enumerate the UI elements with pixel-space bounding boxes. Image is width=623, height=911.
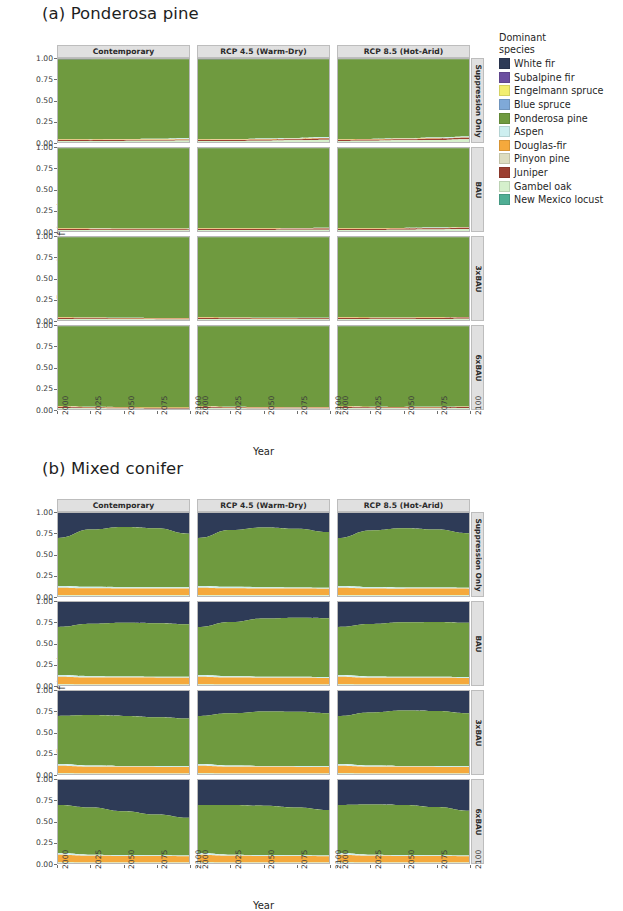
legend-item[interactable]: Gambel oak xyxy=(499,179,623,193)
facet-cell xyxy=(57,512,190,597)
area-douglas-fir xyxy=(58,677,189,685)
area-douglas-fir xyxy=(58,588,189,595)
area-ponderosa-pine xyxy=(58,527,189,587)
facet-cell xyxy=(57,58,190,143)
area-ponderosa-pine xyxy=(198,148,329,228)
x-tick-label: 2000 xyxy=(201,850,210,869)
row-strip-label: 3xBAU xyxy=(471,690,484,775)
area-ponderosa-pine xyxy=(338,804,469,855)
area-ponderosa-pine xyxy=(338,528,469,587)
area-ponderosa-pine xyxy=(198,59,329,139)
x-tick-label: 2100 xyxy=(474,396,483,415)
x-tick-mark xyxy=(330,411,331,414)
facet-cell xyxy=(337,325,470,410)
y-tick-label: 0.25 xyxy=(25,117,53,126)
legend-item[interactable]: Blue spruce xyxy=(499,98,623,112)
facet-cell xyxy=(337,779,470,864)
x-tick-label: 2000 xyxy=(341,396,350,415)
x-tick-mark xyxy=(370,411,371,414)
area-ponderosa-pine xyxy=(338,59,469,139)
y-tick-label: 0.50 xyxy=(25,185,53,194)
area-ponderosa-pine xyxy=(58,623,189,677)
x-tick-mark xyxy=(370,865,371,868)
legend-item[interactable]: New Mexico locust xyxy=(499,193,623,207)
x-tick-mark xyxy=(230,411,231,414)
legend-item[interactable]: Pinyon pine xyxy=(499,152,623,166)
y-tick-label: 1.00 xyxy=(25,775,53,784)
column-strip-label: Contemporary xyxy=(57,499,190,512)
panel-a-title: (a) Ponderosa pine xyxy=(42,4,199,23)
area-ponderosa-pine xyxy=(198,805,329,856)
legend-item[interactable]: Ponderosa pine xyxy=(499,111,623,125)
y-tick-label: 0.50 xyxy=(25,817,53,826)
x-tick-mark xyxy=(157,865,158,868)
facet-cell xyxy=(197,601,330,686)
y-tick-label: 0.50 xyxy=(25,639,53,648)
legend-item[interactable]: Aspen xyxy=(499,125,623,139)
x-tick-label: 2050 xyxy=(407,850,416,869)
y-tick-label: 0.75 xyxy=(25,342,53,351)
legend-swatch-icon xyxy=(499,58,510,69)
legend-item-label: Engelmann spruce xyxy=(514,85,604,96)
x-tick-label: 2025 xyxy=(94,850,103,869)
area-gambel-oak xyxy=(198,595,329,596)
y-tick-label: 0.25 xyxy=(25,295,53,304)
legend-item[interactable]: Subalpine fir xyxy=(499,71,623,85)
x-tick-label: 2075 xyxy=(300,850,309,869)
y-tick-label: 1.00 xyxy=(25,143,53,152)
area-ponderosa-pine xyxy=(58,59,189,139)
x-tick-mark xyxy=(230,865,231,868)
x-tick-mark xyxy=(437,411,438,414)
y-tick-mark xyxy=(54,321,57,322)
facet-cell xyxy=(197,690,330,775)
area-ponderosa-pine xyxy=(58,148,189,228)
x-tick-label: 2000 xyxy=(61,850,70,869)
y-tick-label: 1.00 xyxy=(25,686,53,695)
x-tick-label: 2050 xyxy=(267,850,276,869)
column-strip-label: RCP 8.5 (Hot-Arid) xyxy=(337,45,470,58)
panel-b: (b) Mixed conifer Proportion of Landscap… xyxy=(0,455,500,908)
facet-cell xyxy=(57,690,190,775)
x-tick-label: 2025 xyxy=(234,396,243,415)
row-strip-text: 6xBAU xyxy=(473,354,482,381)
x-tick-mark xyxy=(470,865,471,868)
area-douglas-fir xyxy=(198,677,329,685)
facet-cell xyxy=(337,601,470,686)
facet-cell xyxy=(57,325,190,410)
y-tick-label: 0.75 xyxy=(25,618,53,627)
area-ponderosa-pine xyxy=(338,622,469,677)
column-strip-label: RCP 4.5 (Warm-Dry) xyxy=(197,45,330,58)
legend-item[interactable]: Douglas-fir xyxy=(499,139,623,153)
legend-item-label: Gambel oak xyxy=(514,181,572,192)
legend-swatch-icon xyxy=(499,72,510,83)
y-tick-label: 0.25 xyxy=(25,571,53,580)
facet-cell xyxy=(57,147,190,232)
facet-cell xyxy=(57,779,190,864)
y-tick-label: 1.00 xyxy=(25,321,53,330)
legend-item-label: Aspen xyxy=(514,126,544,137)
legend-title-line2: species xyxy=(499,44,623,56)
y-tick-label: 1.00 xyxy=(25,508,53,517)
x-tick-mark xyxy=(297,411,298,414)
row-strip-label: BAU xyxy=(471,601,484,686)
panel-b-x-axis-label: Year xyxy=(57,900,470,911)
x-tick-mark xyxy=(124,411,125,414)
x-tick-mark xyxy=(124,865,125,868)
facet-cell xyxy=(197,512,330,597)
y-tick-label: 0.25 xyxy=(25,206,53,215)
facet-cell xyxy=(197,236,330,321)
y-tick-label: 0.25 xyxy=(25,749,53,758)
column-strip-label: RCP 8.5 (Hot-Arid) xyxy=(337,499,470,512)
row-strip-label: BAU xyxy=(471,147,484,232)
legend-swatch-icon xyxy=(499,113,510,124)
area-ponderosa-pine xyxy=(58,326,189,407)
x-tick-label: 2000 xyxy=(61,396,70,415)
legend-item[interactable]: Engelmann spruce xyxy=(499,84,623,98)
x-tick-mark xyxy=(190,865,191,868)
row-strip-label: Suppression Only xyxy=(471,58,484,143)
legend-item[interactable]: White fir xyxy=(499,57,623,71)
legend-item[interactable]: Juniper xyxy=(499,166,623,180)
y-tick-label: 0.75 xyxy=(25,796,53,805)
facet-cell xyxy=(337,58,470,143)
